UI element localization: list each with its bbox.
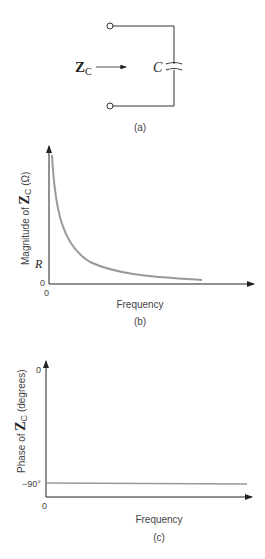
y-tick-m90: −90° [22,479,41,489]
phase-line [46,483,247,484]
caption-c: (c) [153,532,165,543]
y-tick-zero: 0 [36,365,41,375]
top-terminal [107,23,113,29]
xlabel-b: Frequency [116,299,163,310]
magnitude-plot: R 0 0 Frequency (b) Magnitude of ZC (Ω) [17,146,254,327]
circuit-wire [113,26,174,106]
impedance-label: ZC [75,59,92,77]
figure: ZC C (a) R 0 0 Frequency (b) Magnitude o… [0,0,265,559]
x-tick-zero: 0 [44,288,49,298]
caption-b: (b) [134,316,146,327]
circuit-diagram: ZC C (a) [75,23,182,133]
ylabel-c: Phase of ZC (degrees) [13,369,29,473]
xlabel-c: Frequency [135,514,182,525]
x-tick-zero: 0 [42,501,47,511]
ylabel-b: Magnitude of ZC (Ω) [17,172,33,265]
y-tick-zero: 0 [40,278,45,288]
capacitor-label: C [153,60,163,75]
y-tick-r: R [34,257,43,271]
bottom-terminal [107,103,113,109]
magnitude-curve [52,155,202,280]
caption-a: (a) [134,122,146,133]
phase-plot: 0 −90° 0 Frequency (c) Phase of ZC (degr… [13,361,252,543]
